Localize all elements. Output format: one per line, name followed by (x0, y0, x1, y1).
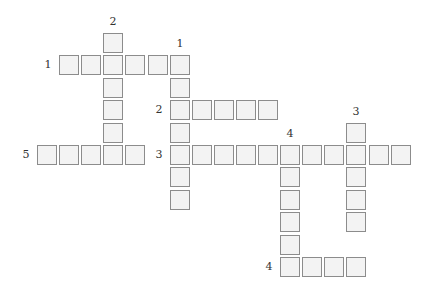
crossword-cell[interactable] (59, 145, 79, 165)
crossword-cell[interactable] (302, 145, 322, 165)
crossword-cell[interactable] (258, 145, 278, 165)
crossword-cell[interactable] (346, 212, 366, 232)
crossword-cell[interactable] (170, 55, 190, 75)
clue-number-3-across: 3 (152, 149, 166, 161)
crossword-cell[interactable] (324, 145, 344, 165)
clue-number-2-across: 2 (152, 104, 166, 116)
crossword-cell[interactable] (346, 145, 366, 165)
crossword-cell[interactable] (170, 190, 190, 210)
crossword-cell[interactable] (170, 100, 190, 120)
crossword-cell[interactable] (280, 257, 300, 277)
crossword-cell[interactable] (280, 145, 300, 165)
crossword-cell[interactable] (148, 55, 168, 75)
crossword-cell[interactable] (280, 167, 300, 187)
crossword-cell[interactable] (280, 190, 300, 210)
crossword-cell[interactable] (103, 123, 123, 143)
crossword-cell[interactable] (59, 55, 79, 75)
crossword-cell[interactable] (170, 123, 190, 143)
crossword-cell[interactable] (103, 33, 123, 53)
crossword-cell[interactable] (170, 78, 190, 98)
clue-number-1-across: 1 (41, 59, 55, 71)
crossword-cell[interactable] (346, 190, 366, 210)
crossword-cell[interactable] (369, 145, 389, 165)
crossword-cell[interactable] (391, 145, 411, 165)
clue-number-1-down: 1 (173, 38, 187, 50)
crossword-cell[interactable] (346, 123, 366, 143)
crossword-cell[interactable] (170, 145, 190, 165)
crossword-cell[interactable] (103, 100, 123, 120)
crossword-cell[interactable] (302, 257, 322, 277)
crossword-cell[interactable] (170, 167, 190, 187)
clue-number-5-across: 5 (19, 149, 33, 161)
crossword-board: 112233445 (0, 0, 430, 291)
crossword-cell[interactable] (258, 100, 278, 120)
crossword-cell[interactable] (236, 145, 256, 165)
crossword-cell[interactable] (236, 100, 256, 120)
crossword-cell[interactable] (280, 235, 300, 255)
crossword-cell[interactable] (346, 167, 366, 187)
crossword-cell[interactable] (125, 145, 145, 165)
crossword-cell[interactable] (37, 145, 57, 165)
crossword-cell[interactable] (324, 257, 344, 277)
crossword-cell[interactable] (125, 55, 145, 75)
clue-number-2-down: 2 (106, 16, 120, 28)
crossword-cell[interactable] (103, 78, 123, 98)
clue-number-4-across: 4 (262, 261, 276, 273)
crossword-cell[interactable] (103, 55, 123, 75)
crossword-cell[interactable] (280, 212, 300, 232)
crossword-cell[interactable] (81, 145, 101, 165)
crossword-cell[interactable] (103, 145, 123, 165)
crossword-cell[interactable] (192, 145, 212, 165)
crossword-cell[interactable] (192, 100, 212, 120)
clue-number-4-down: 4 (283, 128, 297, 140)
crossword-cell[interactable] (214, 100, 234, 120)
clue-number-3-down: 3 (349, 106, 363, 118)
crossword-cell[interactable] (346, 257, 366, 277)
crossword-cell[interactable] (81, 55, 101, 75)
crossword-cell[interactable] (214, 145, 234, 165)
